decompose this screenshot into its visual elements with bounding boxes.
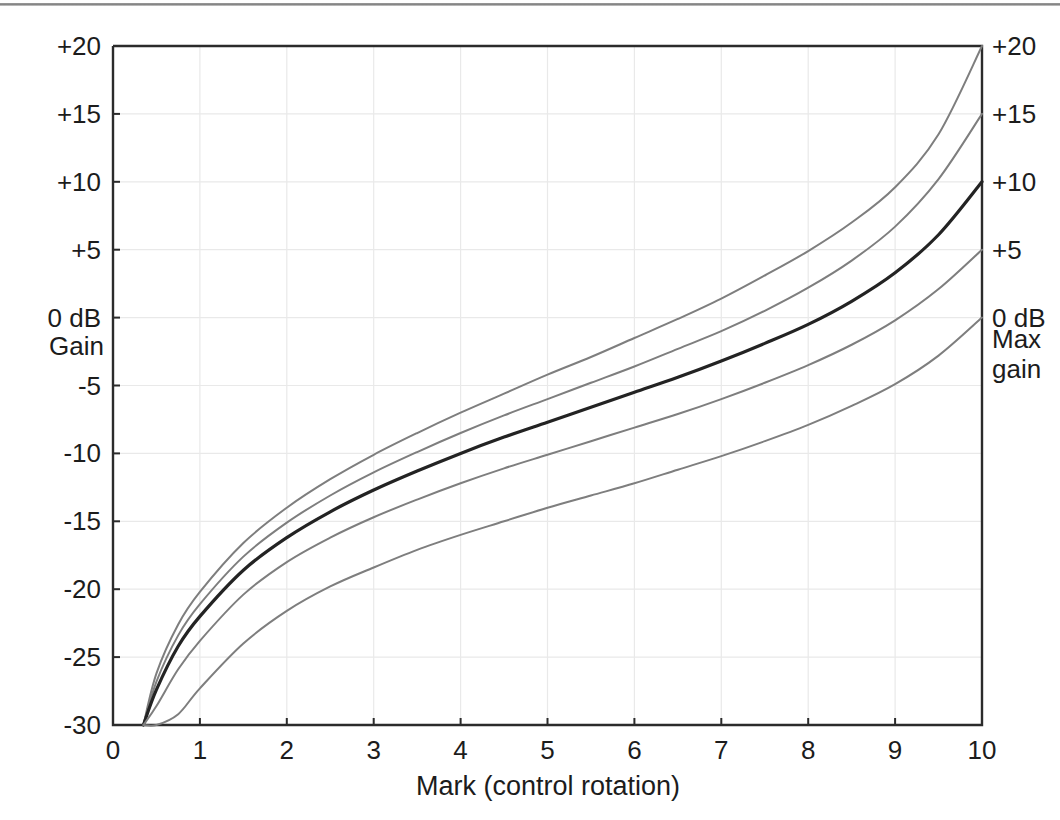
right-tick-label: +10 bbox=[992, 167, 1036, 197]
chart-plot-area: +20+15+10+50 dB-5-10-15-20-25-30 0123456… bbox=[0, 0, 1060, 820]
right-axis-max-caption-line2: gain bbox=[992, 354, 1041, 384]
curve-4 bbox=[143, 250, 982, 725]
y-tick-label: +10 bbox=[57, 167, 101, 197]
right-tick-label: +15 bbox=[992, 99, 1036, 129]
x-tick-label: 0 bbox=[106, 735, 120, 765]
x-tick-label: 6 bbox=[627, 735, 641, 765]
right-tick-label: +20 bbox=[992, 31, 1036, 61]
y-tick-label: -20 bbox=[63, 574, 101, 604]
y-tick-label: +20 bbox=[57, 31, 101, 61]
x-tick-label: 5 bbox=[540, 735, 554, 765]
x-tick-label: 8 bbox=[801, 735, 815, 765]
y-tick-label: -25 bbox=[63, 642, 101, 672]
x-tick-label: 4 bbox=[453, 735, 467, 765]
x-tick-label: 1 bbox=[193, 735, 207, 765]
y-tick-label: -10 bbox=[63, 438, 101, 468]
gridlines bbox=[113, 46, 982, 725]
right-axis-tick-labels: +20+15+10+50 dB bbox=[992, 31, 1046, 333]
y-tick-label: -15 bbox=[63, 506, 101, 536]
y-tick-label: -5 bbox=[78, 371, 101, 401]
curve-2 bbox=[143, 114, 982, 725]
right-axis-max-caption-line1: Max bbox=[992, 324, 1041, 354]
left-axis-gain-caption: Gain bbox=[49, 331, 104, 361]
x-tick-label: 10 bbox=[968, 735, 997, 765]
x-tick-label: 2 bbox=[280, 735, 294, 765]
y-tick-label: +5 bbox=[71, 235, 101, 265]
y-tick-label: +15 bbox=[57, 99, 101, 129]
x-tick-label: 9 bbox=[888, 735, 902, 765]
y-tick-label: 0 dB bbox=[48, 303, 102, 333]
y-tick-label: -30 bbox=[63, 710, 101, 740]
x-axis-title: Mark (control rotation) bbox=[416, 771, 680, 801]
y-axis-tick-labels: +20+15+10+50 dB-5-10-15-20-25-30 bbox=[48, 31, 102, 740]
right-tick-label: +5 bbox=[992, 235, 1022, 265]
x-axis-tick-labels: 012345678910 bbox=[106, 735, 997, 765]
gain-vs-mark-chart: +20+15+10+50 dB-5-10-15-20-25-30 0123456… bbox=[0, 0, 1060, 820]
x-tick-label: 3 bbox=[366, 735, 380, 765]
x-tick-label: 7 bbox=[714, 735, 728, 765]
